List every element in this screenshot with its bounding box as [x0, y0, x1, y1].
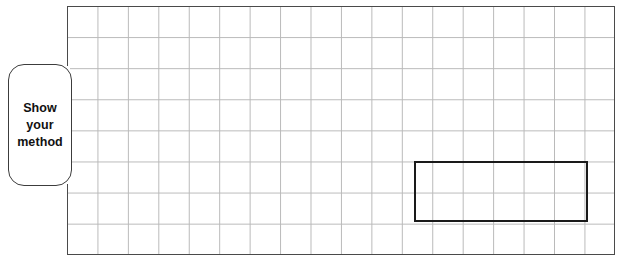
- show-your-method-callout: Show your method: [8, 64, 72, 186]
- worksheet-page: Show your method: [0, 0, 625, 265]
- answer-rectangle[interactable]: [414, 161, 588, 222]
- callout-line-1: Show: [23, 100, 57, 117]
- callout-line-3: method: [17, 134, 63, 151]
- callout-line-2: your: [26, 117, 54, 134]
